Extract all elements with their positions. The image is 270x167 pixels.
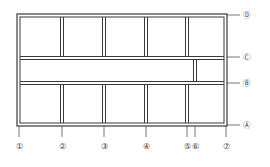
axis-label-3: ③	[101, 142, 108, 151]
axis-label-5: ⑤	[184, 142, 191, 151]
vertical-walls-middle	[194, 60, 197, 82]
axis-label-B: Ⓑ	[243, 79, 251, 88]
horizontal-axis-labels: Ⓓ Ⓒ Ⓑ Ⓐ	[243, 11, 251, 130]
axis-label-2: ②	[59, 142, 66, 151]
axis-label-A: Ⓐ	[243, 121, 251, 130]
axis-label-4: ④	[143, 142, 150, 151]
axis-label-1: ①	[16, 142, 23, 151]
vertical-axis-labels: ① ② ③ ④ ⑤ ⑥ ⑦	[16, 142, 230, 151]
vertical-walls-top	[61, 17, 189, 57]
vertical-axis-leaders	[19, 126, 226, 137]
outer-walls	[17, 14, 227, 126]
axis-label-7: ⑦	[223, 142, 230, 151]
axis-label-D: Ⓓ	[243, 11, 251, 20]
axis-label-C: Ⓒ	[243, 53, 251, 62]
grid-plan-drawing: ① ② ③ ④ ⑤ ⑥ ⑦ Ⓓ Ⓒ Ⓑ Ⓐ	[0, 0, 270, 167]
horizontal-axis-leaders	[227, 15, 240, 125]
axis-label-6: ⑥	[192, 142, 199, 151]
vertical-walls-bottom	[61, 85, 189, 124]
